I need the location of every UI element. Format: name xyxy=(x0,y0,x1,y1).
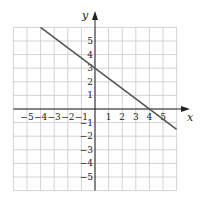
y-tick-label: −1 xyxy=(80,118,93,128)
y-tick-label: 4 xyxy=(87,50,93,60)
x-tick-label: 1 xyxy=(106,112,112,122)
y-tick-label: 2 xyxy=(87,77,93,87)
y-axis-label: y xyxy=(81,9,89,22)
x-axis-label: x xyxy=(187,111,194,124)
y-tick-label: −2 xyxy=(80,131,93,141)
x-tick-label: −4 xyxy=(34,112,48,122)
x-tick-label: 4 xyxy=(147,112,153,122)
x-tick-label: −3 xyxy=(48,112,62,122)
x-tick-label: −5 xyxy=(20,112,34,122)
x-tick-label: −2 xyxy=(61,112,74,122)
y-tick-label: −3 xyxy=(80,145,94,155)
x-tick-label: 2 xyxy=(119,112,125,122)
y-tick-label: 1 xyxy=(87,90,93,100)
y-tick-label: −5 xyxy=(80,172,94,182)
x-tick-label: 3 xyxy=(133,112,139,122)
coordinate-plane: −5−4−3−2−11234554321−1−2−3−4−5 x y xyxy=(0,0,203,203)
y-tick-label: −4 xyxy=(80,158,94,168)
y-tick-label: 5 xyxy=(87,36,93,46)
y-axis-arrow-icon xyxy=(92,11,98,20)
